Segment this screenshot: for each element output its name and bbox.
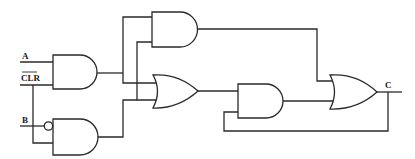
and-gate-3 [152, 12, 198, 47]
label-c: C [385, 80, 392, 90]
and-gate-2 [53, 119, 98, 155]
or-gate-2 [330, 75, 377, 109]
label-b: B [22, 115, 28, 125]
inverter-bubble-b [44, 122, 52, 130]
or-gate-1 [153, 75, 198, 108]
label-a: A [22, 51, 29, 61]
wire-and2-out [97, 100, 137, 137]
label-clr: CLR [21, 73, 41, 83]
and-gate-1 [53, 55, 97, 89]
logic-circuit-diagram: A CLR B C [0, 0, 415, 159]
wire-and3-in2-or1-in3 [137, 42, 158, 100]
and-gate-4 [238, 84, 283, 118]
wire-and3-out [197, 29, 334, 81]
wire-clr-branch [33, 85, 53, 143]
